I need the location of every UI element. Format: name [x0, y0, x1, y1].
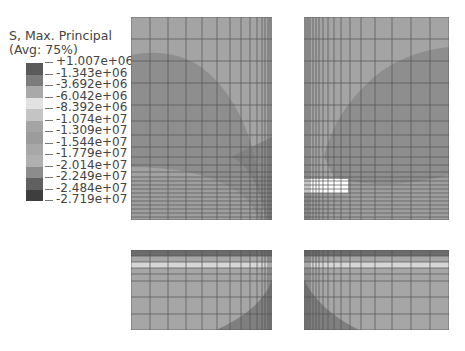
- legend-swatch: [26, 75, 43, 87]
- contour-panel-top-left: [131, 17, 272, 220]
- legend-swatch: [26, 109, 43, 121]
- legend-swatch: [26, 98, 43, 110]
- legend-color-bar: [26, 63, 43, 201]
- contour-panel-bottom-left: [131, 250, 272, 330]
- contour-panel-top-right: [304, 17, 449, 220]
- legend-labels: +1.007e+06-1.343e+06-3.692e+06-6.042e+06…: [45, 56, 133, 206]
- legend-title: S, Max. Principal: [9, 28, 112, 43]
- legend-swatch: [26, 144, 43, 156]
- legend-swatch: [26, 121, 43, 133]
- legend-swatch: [26, 63, 43, 75]
- legend-swatch: [26, 178, 43, 190]
- legend-swatch: [26, 190, 43, 202]
- legend-swatch: [26, 155, 43, 167]
- contour-panel-bottom-right: [304, 250, 449, 330]
- legend-swatch: [26, 132, 43, 144]
- legend-label: -2.719e+07: [45, 194, 133, 206]
- legend-swatch: [26, 86, 43, 98]
- legend-swatch: [26, 167, 43, 179]
